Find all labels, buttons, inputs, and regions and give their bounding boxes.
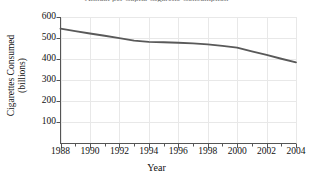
chart-figure: Annual per Capita Cigarette Consumption … bbox=[0, 0, 313, 182]
y-axis-tick-label: 200 bbox=[30, 96, 56, 106]
grid-lines bbox=[61, 17, 297, 144]
y-axis-tick-label: 600 bbox=[30, 12, 56, 22]
axis-major-ticks bbox=[57, 18, 61, 123]
y-axis-tick-label: 300 bbox=[30, 75, 56, 85]
x-axis-label: Year bbox=[0, 162, 313, 173]
y-axis-tick-label: 400 bbox=[30, 54, 56, 64]
y-axis-label-line1: Cigarettes Consumed bbox=[6, 35, 16, 117]
y-axis-label: Cigarettes Consumed (billions) bbox=[6, 11, 27, 141]
y-axis-tick-label: 100 bbox=[30, 117, 56, 127]
x-axis-tick-label: 2004 bbox=[279, 146, 313, 156]
y-axis-tick-label: 500 bbox=[30, 33, 56, 43]
y-axis-label-line2: (billions) bbox=[16, 11, 27, 141]
